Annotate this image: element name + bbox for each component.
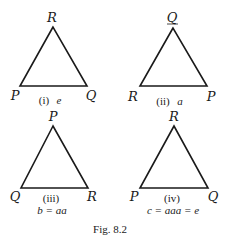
vertex-left-label: Q (10, 189, 21, 204)
triangle-equation: c = aaa = e (147, 204, 199, 216)
triangle-label: a (177, 95, 183, 107)
triangle-i: R P Q (i) e (10, 10, 97, 107)
vertex-right-label: P (206, 89, 216, 104)
vertex-top-label: R (46, 10, 57, 25)
triangle-equation: b = aa (37, 204, 67, 216)
figure-8-2: R P Q (i) e Q R P (ii) a P Q R (iii) b =… (0, 0, 230, 242)
vertex-top-label: P (48, 109, 58, 124)
triangle-iv: R P Q (iv) c = aaa = e (129, 109, 219, 216)
triangle-ii: Q R P (ii) a (127, 10, 216, 108)
triangle-iii-shape (21, 126, 88, 188)
vertex-left-label: P (10, 88, 20, 103)
vertex-right-label: Q (86, 88, 97, 103)
triangle-numeral: (ii) (156, 95, 170, 108)
figure-caption: Fig. 8.2 (93, 223, 127, 235)
vertex-right-label: Q (208, 189, 219, 204)
triangle-iv-shape (140, 126, 208, 188)
vertex-right-label: R (86, 189, 97, 204)
triangle-numeral: (i) (39, 94, 50, 107)
vertex-left-label: P (129, 189, 139, 204)
triangle-ii-shape (140, 28, 207, 86)
vertex-left-label: R (127, 89, 138, 104)
triangle-i-shape (20, 27, 87, 86)
triangle-iii: P Q R (iii) b = aa (10, 109, 97, 216)
triangle-label: e (57, 94, 62, 106)
vertex-top-label: Q (167, 10, 178, 25)
vertex-top-label: R (168, 109, 179, 124)
